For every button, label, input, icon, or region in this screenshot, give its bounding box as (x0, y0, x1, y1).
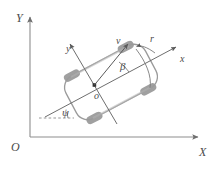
velocity-vector-label: v (116, 36, 120, 46)
global-y-axis-label: Y (16, 12, 23, 24)
global-origin-label: O (11, 141, 20, 153)
body-y-axis-label: y (66, 44, 70, 54)
body-origin-label: o (94, 91, 99, 101)
global-x-axis-label: X (199, 146, 206, 158)
body-x-axis-label: x (180, 54, 184, 64)
vehicle-motion-svg (0, 0, 218, 170)
yaw-rate-label: r (150, 34, 154, 44)
heading-angle-label: ψ (62, 107, 69, 118)
figure-canvas: Y X O y x o v r β ψ (0, 0, 218, 170)
sideslip-angle-label: β (120, 61, 125, 72)
